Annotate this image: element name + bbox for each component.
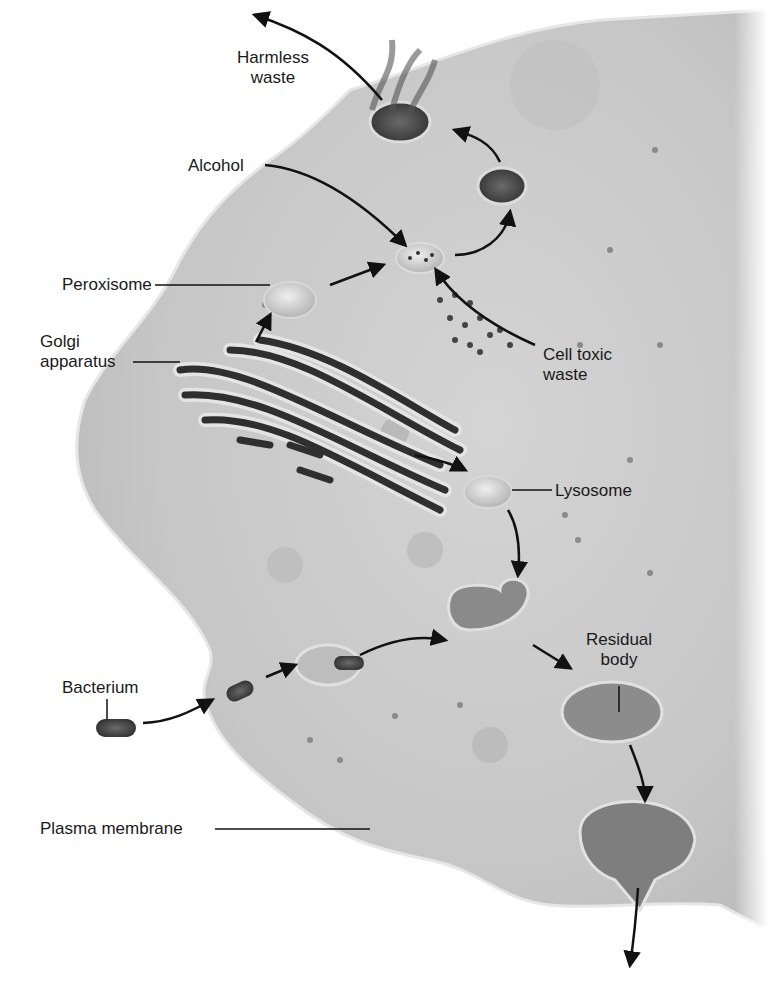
vesicle-small: [267, 547, 303, 583]
vesicle-small: [472, 727, 508, 763]
label-line: waste: [543, 365, 612, 385]
lysosome-organelle: [464, 476, 512, 508]
label-alcohol: Alcohol: [188, 156, 244, 176]
residual-body-organelle: [562, 682, 662, 742]
vesicle-mid-top: [478, 168, 526, 204]
label-line: body: [575, 650, 663, 670]
label-golgi-apparatus: Golgi apparatus: [40, 332, 116, 372]
label-residual-body: Residual body: [575, 630, 663, 670]
label-lysosome: Lysosome: [555, 481, 632, 501]
label-plasma-membrane: Plasma membrane: [40, 819, 183, 839]
label-line: Cell toxic: [543, 345, 612, 365]
vesicle-small: [407, 532, 443, 568]
label-bacterium: Bacterium: [62, 678, 139, 698]
label-peroxisome: Peroxisome: [62, 275, 152, 295]
label-harmless-waste: Harmless waste: [228, 48, 318, 88]
label-line: Golgi: [40, 332, 116, 352]
label-line: waste: [228, 68, 318, 88]
engulfed-bacterium: [334, 656, 364, 670]
bacterium-outside: [96, 719, 136, 737]
peroxisome-organelle: [264, 282, 316, 318]
label-line: Harmless: [228, 48, 318, 68]
label-cell-toxic-waste: Cell toxic waste: [543, 345, 612, 385]
arrow-icon: [143, 700, 212, 723]
peroxisome-alcohol-vesicle: [396, 243, 444, 273]
label-line: apparatus: [40, 352, 116, 372]
label-line: Residual: [575, 630, 663, 650]
cell-diagram: [0, 0, 768, 988]
